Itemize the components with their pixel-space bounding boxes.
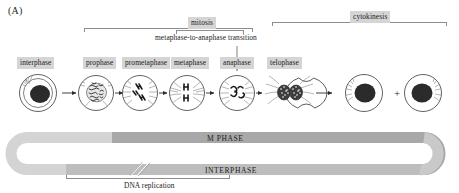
interphase-bar-label: INTERPHASE [205, 166, 257, 175]
stage-label-metaphase: metaphase [171, 57, 209, 69]
stage-label-telophase: telophase [267, 57, 302, 69]
cell-cycle-figure: + (A) mitosis cytokinesis metaphase-to-a… [0, 0, 459, 193]
cell-prophase [71, 66, 122, 111]
cytokinesis-label: cytokinesis [350, 11, 390, 23]
stage-label-interphase: interphase [17, 57, 54, 69]
cell-anaphase [214, 75, 260, 111]
mitosis-label: mitosis [188, 17, 216, 29]
dna-replication-label: DNA replication [124, 181, 175, 190]
cell-daughter-2 [405, 71, 449, 112]
stage-label-anaphase: anaphase [220, 57, 254, 69]
panel-letter: (A) [8, 5, 22, 16]
m-phase-label: M PHASE [207, 134, 244, 143]
stage-label-prometaphase: prometaphase [122, 57, 170, 69]
cell-prometaphase [116, 74, 164, 111]
cell-metaphase [164, 76, 210, 111]
cell-telophase [265, 76, 327, 108]
plus-icon: + [394, 87, 400, 99]
stage-label-prophase: prophase [83, 57, 116, 69]
dna-replication-bracket [66, 175, 230, 179]
cell-daughter-1 [339, 71, 383, 112]
metaphase-to-anaphase-label: metaphase-to-anaphase transition [155, 33, 257, 42]
cell-interphase [13, 68, 57, 112]
